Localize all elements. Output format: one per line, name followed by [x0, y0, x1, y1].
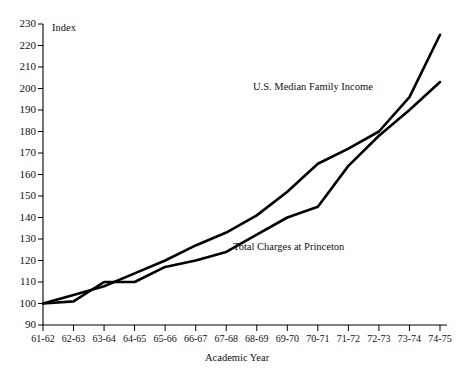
x-tick-label-74-75: 74-75: [428, 333, 451, 344]
chart-svg: [0, 0, 468, 377]
x-tick-label-63-64: 63-64: [92, 333, 115, 344]
y-tick-label-190: 190: [12, 103, 36, 115]
x-tick-label-71-72: 71-72: [337, 333, 360, 344]
y-tick-label-210: 210: [12, 60, 36, 72]
y-tick-label-110: 110: [12, 275, 36, 287]
x-tick-marks: [43, 325, 440, 331]
series-line-u-s-median-family-income: [43, 35, 440, 304]
x-tick-label-62-63: 62-63: [62, 333, 85, 344]
y-tick-label-160: 160: [12, 168, 36, 180]
y-tick-label-100: 100: [12, 297, 36, 309]
y-tick-label-150: 150: [12, 189, 36, 201]
x-tick-label-61-62: 61-62: [31, 333, 54, 344]
x-tick-label-69-70: 69-70: [276, 333, 299, 344]
series-label-us-median-family-income: U.S. Median Family Income: [253, 81, 373, 92]
y-tick-label-180: 180: [12, 125, 36, 137]
chart-figure: 9010011012013014015016017018019020021022…: [0, 0, 468, 377]
x-tick-label-64-65: 64-65: [123, 333, 146, 344]
x-tick-label-65-66: 65-66: [153, 333, 176, 344]
y-tick-marks: [38, 24, 43, 325]
y-tick-label-230: 230: [12, 17, 36, 29]
series-label-total-charges-at-princeton: Total Charges at Princeton: [233, 241, 344, 252]
line-chart-canvas: 9010011012013014015016017018019020021022…: [0, 0, 468, 377]
y-tick-label-140: 140: [12, 211, 36, 223]
x-tick-label-72-73: 72-73: [367, 333, 390, 344]
series-paths: [43, 35, 440, 304]
y-tick-label-120: 120: [12, 254, 36, 266]
x-axis-title: Academic Year: [205, 352, 269, 363]
y-tick-label-170: 170: [12, 146, 36, 158]
y-tick-label-220: 220: [12, 39, 36, 51]
x-tick-label-67-68: 67-68: [215, 333, 238, 344]
x-tick-label-66-67: 66-67: [184, 333, 207, 344]
y-tick-label-90: 90: [12, 318, 36, 330]
x-tick-label-73-74: 73-74: [398, 333, 421, 344]
series-line-total-charges-at-princeton: [43, 82, 440, 303]
y-tick-label-130: 130: [12, 232, 36, 244]
x-tick-label-68-69: 68-69: [245, 333, 268, 344]
y-tick-label-200: 200: [12, 82, 36, 94]
y-axis-title: Index: [52, 22, 76, 33]
x-tick-label-70-71: 70-71: [306, 333, 329, 344]
